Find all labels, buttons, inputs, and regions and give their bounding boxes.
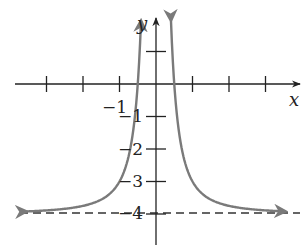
y-tick-label-neg1: −1 xyxy=(118,106,143,126)
y-axis-label: y xyxy=(136,13,148,34)
curve-right-branch xyxy=(171,21,286,212)
x-axis-label: x xyxy=(289,89,299,110)
y-tick-label-neg2: −2 xyxy=(118,139,143,159)
function-graph: y x −1 −1 −2 −3 −4 xyxy=(0,0,306,245)
y-tick-label-neg4: −4 xyxy=(118,203,143,223)
y-tick-label-neg3: −3 xyxy=(118,171,143,191)
